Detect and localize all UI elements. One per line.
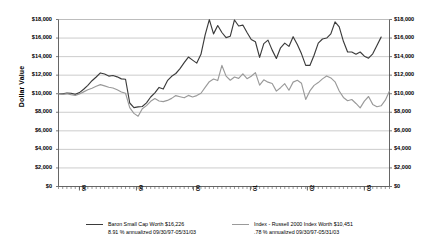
y-tick-label: $6,000 — [394, 128, 428, 134]
y-tick-label: $6,000 — [18, 128, 52, 134]
y-tick-label: $10,000 — [394, 91, 428, 97]
legend-item: Index - Russell 2000 Index Worth $10,451… — [232, 220, 353, 236]
chart-legend: Baron Small Cap Worth $16,226 8.91 % ann… — [0, 218, 437, 244]
legend-swatch-baron — [86, 224, 103, 225]
y-tick-label: $4,000 — [18, 146, 52, 152]
y-tick-label: $4,000 — [394, 146, 428, 152]
y-tick-label: $12,000 — [394, 72, 428, 78]
y-tick-label: $16,000 — [394, 35, 428, 41]
y-tick-label: $8,000 — [18, 109, 52, 115]
x-tick-label: 98 — [82, 185, 88, 191]
y-tick-label: $8,000 — [394, 109, 428, 115]
legend-label-secondary: Index - Russell 2000 Index Worth $10,451 — [254, 220, 353, 228]
y-tick-label: $2,000 — [18, 165, 52, 171]
y-tick-label: $14,000 — [18, 54, 52, 60]
y-tick-label: $18,000 — [394, 17, 428, 23]
x-tick-label: 03 — [367, 185, 373, 191]
y-tick-label: $2,000 — [394, 165, 428, 171]
y-tick-label: $18,000 — [18, 17, 52, 23]
x-tick-label: 01 — [253, 185, 259, 191]
y-tick-label: $0 — [18, 184, 52, 190]
plot-area — [0, 0, 437, 249]
y-tick-label: $0 — [394, 184, 428, 190]
series-line-1 — [59, 65, 390, 116]
performance-chart: Dollar Value $0$2,000$4,000$6,000$8,000$… — [0, 0, 437, 249]
x-tick-label: 99 — [139, 185, 145, 191]
y-tick-label: $16,000 — [18, 35, 52, 41]
legend-sublabel-primary: 8.91 % annualized 09/30/97-05/31/03 — [108, 228, 196, 236]
legend-item: Baron Small Cap Worth $16,226 8.91 % ann… — [86, 220, 196, 236]
y-tick-label: $12,000 — [18, 72, 52, 78]
series-line-0 — [59, 20, 382, 108]
y-tick-label: $10,000 — [18, 91, 52, 97]
legend-sublabel-secondary: .78 % annualized 09/30/97-05/31/03 — [254, 228, 353, 236]
y-tick-label: $14,000 — [394, 54, 428, 60]
x-tick-label: 02 — [310, 185, 316, 191]
legend-swatch-index — [232, 224, 249, 225]
x-tick-label: 00 — [196, 185, 202, 191]
legend-label-primary: Baron Small Cap Worth $16,226 — [108, 220, 196, 228]
